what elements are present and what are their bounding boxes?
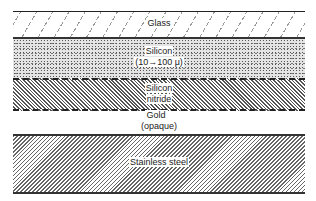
silicon-layer: Silicon (10→100 μ) bbox=[13, 37, 305, 80]
nitride-label-line2: nitride bbox=[146, 94, 173, 104]
silicon-label: Silicon bbox=[145, 46, 174, 56]
steel-label: Stainless steel bbox=[129, 157, 189, 167]
gold-opaque-label: (opaque) bbox=[140, 121, 178, 131]
gold-layer: Gold (opaque) bbox=[13, 107, 305, 134]
stainless-steel-layer: Stainless steel bbox=[13, 134, 305, 194]
gold-label: Gold bbox=[145, 110, 166, 120]
nitride-label-line1: Silicon bbox=[145, 83, 174, 93]
glass-label: Glass bbox=[146, 18, 171, 28]
silicon-thickness-label: (10→100 μ) bbox=[134, 57, 184, 67]
